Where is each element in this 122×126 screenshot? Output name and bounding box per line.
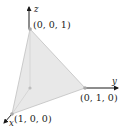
triangle-face bbox=[12, 29, 85, 114]
point-z bbox=[28, 27, 32, 31]
point-y bbox=[83, 86, 87, 90]
y-axis-label: y bbox=[111, 76, 117, 86]
point-z-label: (0, 0, 1) bbox=[33, 19, 71, 30]
tetrahedron-diagram: z y x (0, 0, 1) (0, 1, 0) (1, 0, 0) bbox=[0, 0, 122, 126]
point-y-label: (0, 1, 0) bbox=[80, 92, 118, 103]
z-axis-label: z bbox=[33, 4, 39, 14]
point-origin bbox=[28, 86, 31, 89]
point-x-label: (1, 0, 0) bbox=[14, 113, 52, 124]
